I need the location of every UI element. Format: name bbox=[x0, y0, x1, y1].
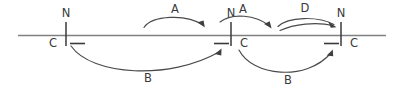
node-3-lower-label: C bbox=[350, 36, 358, 50]
node-3-group: N C bbox=[324, 6, 358, 50]
arc-b-2-path bbox=[239, 50, 331, 72]
arc-b-2-label: B bbox=[284, 73, 292, 87]
node-1-lower-label: C bbox=[49, 36, 57, 50]
arc-a-2-path bbox=[220, 16, 269, 25]
arc-a-1-arrowhead bbox=[198, 20, 205, 27]
arc-d-1-path-lower bbox=[280, 24, 333, 31]
arc-a-2-label: A bbox=[239, 2, 247, 16]
arc-a-1-group: A bbox=[144, 2, 205, 28]
node-2-lower-label: C bbox=[240, 36, 248, 50]
arc-a-1-path bbox=[144, 17, 203, 27]
node-1-group: N C bbox=[49, 6, 85, 50]
arc-d-1-path-upper bbox=[278, 19, 334, 27]
arc-b-2-group: B bbox=[239, 50, 333, 88]
arc-b-2-arrowhead bbox=[327, 50, 334, 57]
diagram-canvas: N C N C N C A A bbox=[0, 0, 399, 94]
diagram-svg: N C N C N C A A bbox=[0, 0, 399, 94]
node-3-upper-label: N bbox=[337, 6, 346, 20]
arc-b-1-path bbox=[71, 46, 219, 71]
arc-b-1-label: B bbox=[144, 71, 152, 85]
arc-b-1-group: B bbox=[71, 46, 222, 85]
arc-a-1-label: A bbox=[171, 2, 179, 16]
node-1-upper-label: N bbox=[62, 6, 71, 20]
arc-d-1-label: D bbox=[301, 1, 310, 15]
arc-d-1-group: D bbox=[278, 1, 337, 31]
